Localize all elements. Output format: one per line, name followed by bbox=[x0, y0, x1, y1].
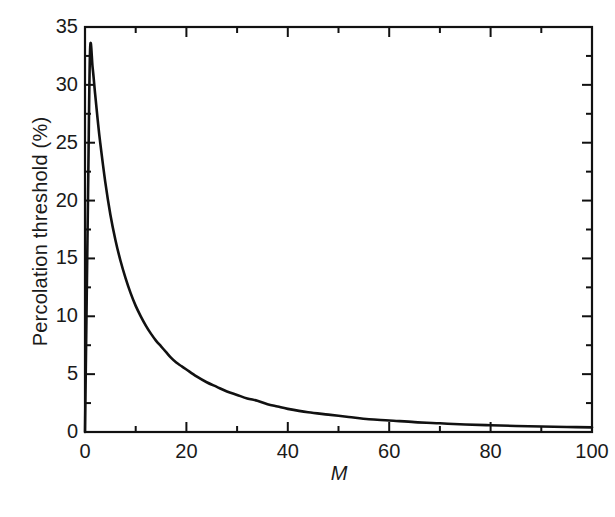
plot-area bbox=[0, 0, 615, 517]
caption-fragment bbox=[0, 498, 615, 510]
data-series-line-0 bbox=[85, 43, 592, 432]
x-tick-label: 0 bbox=[55, 441, 115, 461]
figure-percolation-threshold: Percolation threshold (%) 05101520253035… bbox=[0, 0, 615, 517]
axes-frame bbox=[85, 27, 592, 432]
x-tick-label: 100 bbox=[562, 441, 615, 461]
x-tick-label: 60 bbox=[359, 441, 419, 461]
x-tick-label: 40 bbox=[258, 441, 318, 461]
x-tick-label: 80 bbox=[461, 441, 521, 461]
x-axis-title: M bbox=[85, 462, 593, 485]
x-tick-label: 20 bbox=[156, 441, 216, 461]
